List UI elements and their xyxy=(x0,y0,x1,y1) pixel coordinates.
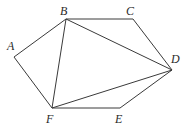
vertex-label-b: B xyxy=(60,4,68,18)
segment-cd xyxy=(133,19,172,70)
segment-bd xyxy=(66,19,172,70)
hexagon-diagram: ABCDEF xyxy=(0,0,183,128)
edges-group xyxy=(14,19,172,108)
segment-ab xyxy=(14,19,66,57)
vertex-label-f: F xyxy=(45,112,54,126)
segment-de xyxy=(120,70,172,108)
vertex-label-c: C xyxy=(126,4,135,18)
vertex-label-d: D xyxy=(170,52,180,66)
vertex-label-a: A xyxy=(6,39,15,53)
segment-fd xyxy=(52,70,172,108)
vertex-label-e: E xyxy=(114,112,123,126)
segment-bf xyxy=(52,19,66,108)
segment-fa xyxy=(14,57,52,108)
